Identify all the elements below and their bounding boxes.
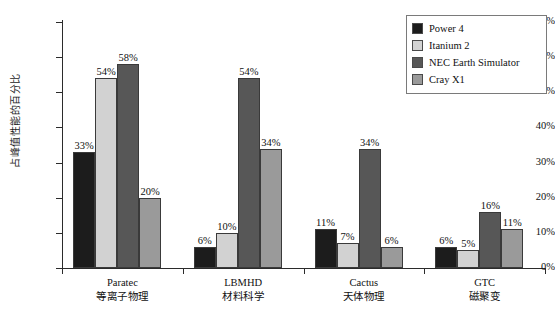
group-label-en: Cactus: [304, 276, 425, 289]
group-label-cn: 等离子物理: [62, 289, 183, 303]
legend-color-swatch: [412, 23, 423, 34]
bar: [117, 64, 139, 268]
group-label-cn: 磁聚变: [424, 289, 545, 303]
bar-value-label: 34%: [253, 137, 289, 148]
legend-item: Power 4: [412, 20, 541, 37]
bar: [457, 250, 479, 268]
bar: [73, 152, 95, 268]
legend-color-swatch: [412, 57, 423, 68]
bar: [501, 229, 523, 268]
x-axis-tick: [304, 268, 305, 274]
bar: [435, 247, 457, 268]
x-axis-tick: [183, 268, 184, 274]
legend-item: NEC Earth Simulator: [412, 54, 541, 71]
bar-chart: 占峰值性能的百分比 0%10%20%30%40%50%60%70% 33%54%…: [0, 0, 555, 309]
bar: [381, 247, 403, 268]
x-axis-tick: [424, 268, 425, 274]
bar: [359, 149, 381, 268]
legend-item: Itanium 2: [412, 37, 541, 54]
bar: [238, 78, 260, 268]
legend-item-label: Power 4: [429, 23, 464, 34]
group-label-en: GTC: [424, 276, 545, 289]
group-label-en: LBMHD: [183, 276, 304, 289]
scan-artifact-band: [0, 0, 555, 9]
x-axis-tick: [62, 268, 63, 274]
legend-item-label: Itanium 2: [429, 40, 470, 51]
bar: [337, 243, 359, 268]
x-axis-tick: [545, 268, 546, 274]
legend-color-swatch: [412, 40, 423, 51]
bar: [260, 149, 282, 268]
legend: Power 4Itanium 2NEC Earth SimulatorCray …: [406, 15, 547, 94]
group-label-cn: 天体物理: [304, 289, 425, 303]
legend-color-swatch: [412, 74, 423, 85]
x-axis-group-label: GTC磁聚变: [424, 276, 545, 303]
bar: [139, 198, 161, 268]
legend-item-label: Cray X1: [429, 74, 465, 85]
bar-value-label: 11%: [308, 217, 344, 228]
bar-value-label: 20%: [132, 186, 168, 197]
y-axis-title: 占峰值性能的百分比: [10, 56, 21, 186]
x-axis-group-label: Cactus天体物理: [304, 276, 425, 303]
group-label-en: Paratec: [62, 276, 183, 289]
bar: [95, 78, 117, 268]
x-axis-group-label: LBMHD材料科学: [183, 276, 304, 303]
bar: [194, 247, 216, 268]
bar-value-label: 34%: [352, 137, 388, 148]
bar-value-label: 58%: [110, 52, 146, 63]
legend-item-label: NEC Earth Simulator: [429, 57, 519, 68]
bar: [216, 233, 238, 268]
bar-value-label: 6%: [374, 235, 410, 246]
legend-item: Cray X1: [412, 71, 541, 88]
group-label-cn: 材料科学: [183, 289, 304, 303]
x-axis-group-label: Paratec等离子物理: [62, 276, 183, 303]
bar-value-label: 54%: [231, 66, 267, 77]
bar-value-label: 11%: [494, 217, 530, 228]
bar-value-label: 16%: [472, 200, 508, 211]
